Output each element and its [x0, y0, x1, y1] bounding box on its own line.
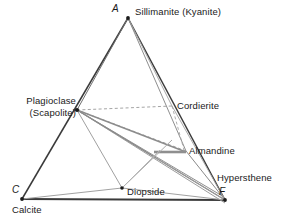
tie-diopside-upper-cross [122, 150, 160, 188]
tie-a-plagioclase [77, 18, 128, 110]
label-diopside: Diopside [127, 187, 165, 198]
marker-f [223, 198, 227, 202]
tie-c-diopside [22, 188, 122, 199]
tie-plagioclase-almandine-solid [77, 110, 186, 152]
tie-plagioclase-intersection [77, 110, 156, 158]
edge-c-f [22, 199, 225, 200]
tie-plagioclase-diopside [77, 110, 122, 188]
vertex-label-f: F [219, 187, 225, 198]
label-hypersthene: Hypersthene [217, 173, 272, 184]
label-plagioclase-line2: (Scapolite) [0, 107, 76, 119]
label-almandine: Almandine [189, 146, 235, 157]
marker-c [20, 197, 24, 201]
vertex-label-c: C [12, 185, 19, 196]
acf-ternary-diagram: A Sillimanite (Kyanite) Plagioclase (Sca… [0, 0, 289, 221]
label-plagioclase-line1: Plagioclase [0, 95, 76, 107]
marker-a [126, 16, 130, 20]
marker-diopside [120, 186, 124, 190]
tie-a-cordierite [128, 18, 172, 106]
label-cordierite: Cordierite [177, 101, 219, 112]
vertex-label-a: A [112, 4, 119, 15]
dash-plagioclase-cordierite [77, 106, 172, 110]
label-plagioclase: Plagioclase (Scapolite) [0, 95, 76, 118]
label-calcite: Calcite [12, 205, 42, 216]
label-sillimanite: Sillimanite (Kyanite) [135, 7, 221, 18]
tie-a-almandine [128, 18, 186, 151]
